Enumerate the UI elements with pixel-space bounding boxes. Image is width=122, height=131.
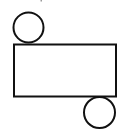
cylinder-net-diagram — [0, 0, 122, 131]
background — [0, 0, 122, 131]
speck-mark — [41, 0, 43, 2]
